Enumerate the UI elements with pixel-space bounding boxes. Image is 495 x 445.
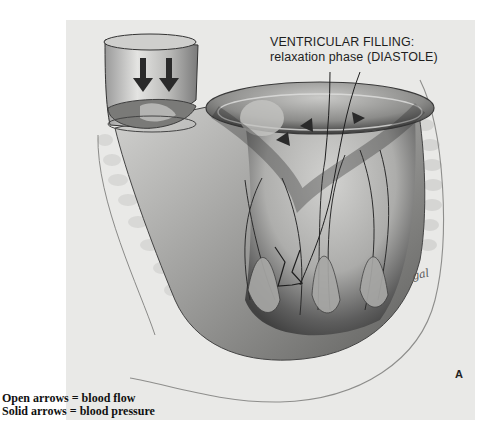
panel-label: A: [455, 368, 463, 380]
figure-title-line2: relaxation phase (DIASTOLE): [270, 50, 438, 65]
heart-illustration: [0, 0, 495, 445]
figure-title-line1: VENTRICULAR FILLING:: [270, 35, 438, 50]
legend-solid-arrows: Solid arrows = blood pressure: [2, 405, 155, 418]
legend: Open arrows = blood flow Solid arrows = …: [2, 392, 155, 418]
figure-title: VENTRICULAR FILLING: relaxation phase (D…: [270, 35, 438, 65]
